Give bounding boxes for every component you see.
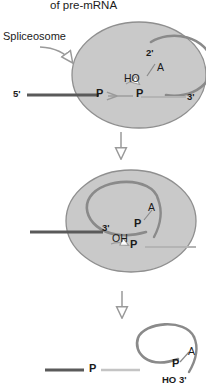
label-p-left-step1: P — [96, 88, 103, 99]
label-2prime-step1: 2' — [146, 48, 154, 58]
label-p-branch-step2: P — [134, 218, 141, 229]
label-branch-adenosine-step3: A — [188, 346, 195, 357]
panel-step2-graphics — [30, 170, 196, 272]
spliceosome-label: Spliceosome — [3, 31, 66, 42]
spliceosome-body-2 — [66, 170, 196, 272]
label-3prime-step2: 3' — [102, 223, 110, 233]
label-branch-adenosine-step2: A — [148, 202, 155, 213]
label-ho-3prime-step3: HO 3' — [162, 375, 186, 385]
label-p-branch-step3: P — [172, 358, 179, 369]
label-p-join-step3: P — [89, 363, 96, 374]
figure-title: of pre-mRNA — [50, 0, 117, 12]
label-p-right-step1: P — [136, 88, 143, 99]
label-5prime-step1: 5' — [13, 89, 21, 99]
label-p-right-step2: P — [130, 239, 137, 250]
label-branch-adenosine-step1: A — [157, 62, 164, 73]
label-oh-step2: OH — [112, 233, 128, 244]
diagram-graphics — [0, 0, 206, 387]
splicing-diagram: of pre-mRNA Spliceosome 5' 3' 2' A HO P … — [0, 0, 206, 387]
spliceosome-pointer-arrow — [40, 47, 72, 62]
label-ho-step1: HO — [124, 73, 140, 84]
label-3prime-step1: 3' — [187, 92, 195, 102]
